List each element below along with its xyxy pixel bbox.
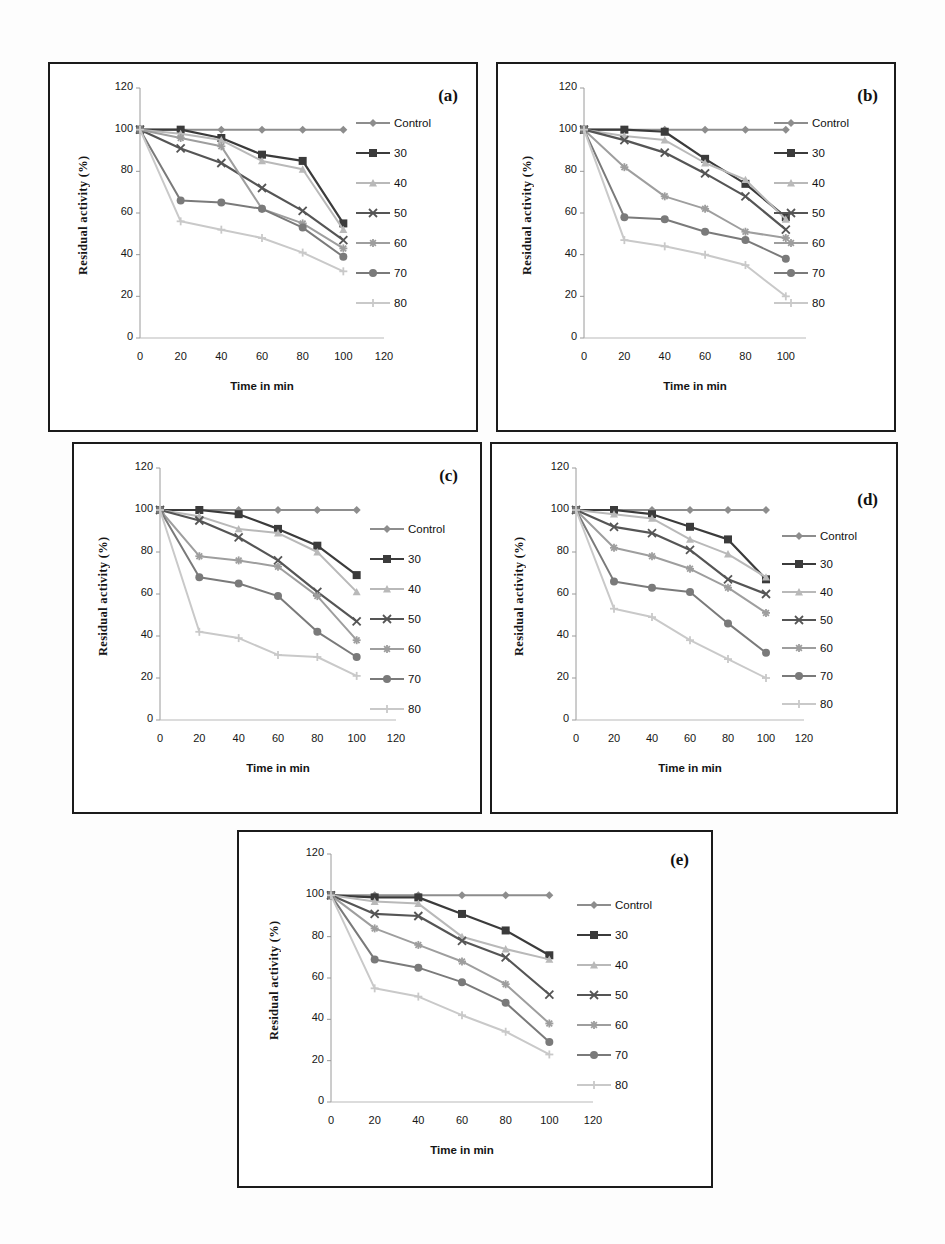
legend-item-50[interactable]: 50	[356, 198, 431, 228]
series-point-70	[686, 588, 694, 596]
series-point-80	[235, 634, 243, 642]
legend-item-control[interactable]: Control	[774, 108, 849, 138]
legend-marker-x-icon	[356, 206, 390, 220]
series-point-50	[741, 192, 749, 200]
legend-item-40[interactable]: 40	[577, 950, 652, 980]
legend-item-80[interactable]: 80	[782, 690, 857, 718]
series-point-60	[701, 205, 709, 213]
series-point-70	[458, 978, 466, 986]
x-tick-label: 100	[325, 350, 361, 362]
series-point-30	[724, 535, 732, 543]
legend-item-60[interactable]: 60	[356, 228, 431, 258]
series-point-60	[313, 592, 321, 600]
legend-marker-plus-icon	[782, 697, 816, 711]
series-point-control	[217, 126, 225, 134]
legend-marker-x-icon	[370, 612, 404, 626]
legend-item-50[interactable]: 50	[577, 980, 652, 1010]
legend-item-40[interactable]: 40	[356, 168, 431, 198]
legend-item-30[interactable]: 30	[370, 544, 445, 574]
legend-marker-asterisk-icon	[774, 236, 808, 250]
legend-item-50[interactable]: 50	[782, 606, 857, 634]
series-point-80	[661, 242, 669, 250]
legend-item-70[interactable]: 70	[356, 258, 431, 288]
y-axis-label: Residual activity (%)	[520, 98, 535, 332]
legend-label: 60	[812, 237, 825, 249]
y-tick-label: 60	[291, 970, 324, 982]
series-point-control	[313, 506, 321, 514]
series-point-80	[217, 226, 225, 234]
legend-item-60[interactable]: 60	[370, 634, 445, 664]
x-tick-label: 60	[444, 1114, 480, 1126]
series-point-70	[217, 199, 225, 207]
series-point-80	[610, 605, 618, 613]
legend-item-80[interactable]: 80	[356, 288, 431, 318]
legend-marker-diamond-icon	[356, 116, 390, 130]
legend-marker-plus-icon	[370, 702, 404, 716]
legend-item-30[interactable]: 30	[782, 550, 857, 578]
legend-marker-triangle-icon	[774, 176, 808, 190]
chart-legend-d: Control304050607080	[782, 522, 857, 718]
legend-item-40[interactable]: 40	[370, 574, 445, 604]
series-point-70	[741, 236, 749, 244]
legend-item-80[interactable]: 80	[577, 1070, 652, 1100]
series-point-70	[371, 955, 379, 963]
x-tick-label: 0	[558, 732, 594, 744]
y-tick-label: 100	[544, 122, 577, 134]
x-tick-label: 120	[575, 1114, 611, 1126]
legend-marker-asterisk-icon	[577, 1018, 611, 1032]
legend-marker-square-icon	[774, 146, 808, 160]
legend-item-control[interactable]: Control	[356, 108, 431, 138]
series-point-30	[686, 523, 694, 531]
legend-item-70[interactable]: 70	[577, 1040, 652, 1070]
y-tick-label: 120	[291, 846, 324, 858]
legend-item-80[interactable]: 80	[370, 694, 445, 724]
legend-marker-diamond-icon	[782, 529, 816, 543]
legend-item-40[interactable]: 40	[782, 578, 857, 606]
series-point-60	[339, 244, 347, 252]
legend-marker-plus-icon	[774, 296, 808, 310]
legend-item-70[interactable]: 70	[370, 664, 445, 694]
legend-item-50[interactable]: 50	[370, 604, 445, 634]
legend-item-30[interactable]: 30	[577, 920, 652, 950]
y-tick-label: 60	[100, 205, 133, 217]
series-point-70	[353, 653, 361, 661]
series-point-30	[502, 926, 510, 934]
series-point-70	[195, 573, 203, 581]
legend-item-30[interactable]: 30	[356, 138, 431, 168]
y-axis-label: Residual activity (%)	[512, 478, 527, 714]
series-line-70	[331, 895, 549, 1042]
legend-item-70[interactable]: 70	[782, 662, 857, 690]
series-point-60	[610, 544, 618, 552]
series-point-50	[339, 236, 347, 244]
series-point-60	[724, 584, 732, 592]
legend-item-50[interactable]: 50	[774, 198, 849, 228]
legend-item-60[interactable]: 60	[577, 1010, 652, 1040]
legend-item-control[interactable]: Control	[782, 522, 857, 550]
series-point-60	[235, 556, 243, 564]
legend-item-70[interactable]: 70	[774, 258, 849, 288]
legend-marker-asterisk-icon	[782, 641, 816, 655]
legend-label: Control	[408, 523, 445, 535]
y-tick-label: 0	[544, 330, 577, 342]
series-point-control	[686, 506, 694, 514]
x-tick-label: 60	[672, 732, 708, 744]
series-point-60	[195, 552, 203, 560]
series-point-60	[414, 941, 422, 949]
legend-item-control[interactable]: Control	[577, 890, 652, 920]
legend-item-40[interactable]: 40	[774, 168, 849, 198]
series-point-70	[724, 619, 732, 627]
x-tick-label: 60	[244, 350, 280, 362]
legend-item-60[interactable]: 60	[774, 228, 849, 258]
legend-item-60[interactable]: 60	[782, 634, 857, 662]
y-tick-label: 60	[120, 586, 153, 598]
y-tick-label: 20	[536, 670, 569, 682]
legend-marker-triangle-icon	[370, 582, 404, 596]
y-tick-label: 60	[536, 586, 569, 598]
panel-b: (b) 020406080100120020406080100Residual …	[496, 62, 896, 432]
legend-marker-circle-icon	[356, 266, 390, 280]
legend-item-control[interactable]: Control	[370, 514, 445, 544]
legend-item-30[interactable]: 30	[774, 138, 849, 168]
legend-item-80[interactable]: 80	[774, 288, 849, 318]
series-line-80	[160, 510, 357, 676]
legend-marker-diamond-icon	[774, 116, 808, 130]
